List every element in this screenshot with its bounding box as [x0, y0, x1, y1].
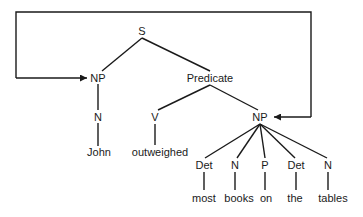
node-n-1: N: [231, 159, 239, 171]
node-np-object: NP: [252, 111, 267, 123]
leaf-john: John: [87, 146, 111, 158]
leaf-tables: tables: [318, 192, 348, 204]
node-det-1: Det: [195, 159, 212, 171]
node-det-2: Det: [287, 159, 304, 171]
leaf-books: books: [224, 192, 254, 204]
leaf-outweighed: outweighed: [132, 146, 188, 158]
node-predicate: Predicate: [187, 72, 233, 84]
leaf-most: most: [192, 192, 216, 204]
connector-bracket: [16, 12, 311, 117]
node-np-subject: NP: [90, 72, 105, 84]
parse-tree-diagram: S NP Predicate N John V outweighed NP De…: [0, 0, 363, 217]
node-s: S: [138, 25, 145, 37]
bracket-line: [16, 12, 311, 117]
node-n-2: N: [324, 159, 332, 171]
node-n-subject: N: [94, 111, 102, 123]
node-p: P: [261, 159, 268, 171]
leaf-on: on: [260, 192, 272, 204]
leaf-the: the: [287, 192, 302, 204]
node-v: V: [151, 111, 159, 123]
